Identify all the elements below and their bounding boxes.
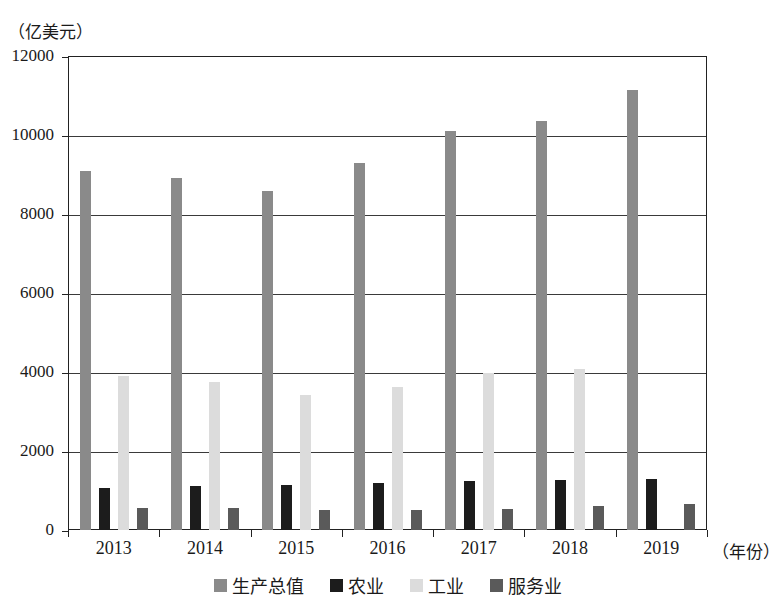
x-axis-tick-mark: [342, 530, 343, 537]
plot-area: [68, 56, 707, 530]
gridline: [69, 136, 706, 137]
y-axis-tick-label: 10000: [12, 125, 55, 145]
legend-swatch-icon: [330, 579, 343, 592]
gridline: [69, 452, 706, 453]
legend-label: 服务业: [508, 572, 562, 598]
legend-swatch-icon: [410, 579, 423, 592]
legend-label: 生产总值: [232, 572, 304, 598]
y-axis-tick-label: 8000: [20, 204, 54, 224]
y-axis-tick-mark: [62, 57, 69, 58]
bar-chart: （亿美元） 020004000600080001000012000 201320…: [0, 0, 776, 598]
x-axis-tick-labels: 2013201420152016201720182019: [68, 538, 707, 566]
legend-swatch-icon: [214, 579, 227, 592]
gridline: [69, 373, 706, 374]
x-axis-tick-label: 2017: [461, 538, 497, 559]
x-axis-title: （年份）: [712, 538, 776, 563]
x-axis-tick-mark: [251, 530, 252, 537]
x-axis-tick-mark: [524, 530, 525, 537]
y-axis-tick-label: 0: [46, 520, 55, 540]
y-axis-tick-mark: [62, 136, 69, 137]
gridline: [69, 294, 706, 295]
y-axis-tick-label: 2000: [20, 441, 54, 461]
legend-swatch-icon: [490, 579, 503, 592]
x-axis-tick-label: 2018: [552, 538, 588, 559]
legend-item: 生产总值: [214, 572, 304, 598]
x-axis-tick-mark: [707, 530, 708, 537]
x-axis-tick-marks: [68, 530, 707, 538]
legend-item: 工业: [410, 572, 464, 598]
x-axis-tick-label: 2019: [643, 538, 679, 559]
y-axis-tick-mark: [62, 373, 69, 374]
x-axis-tick-mark: [616, 530, 617, 537]
legend-label: 农业: [348, 572, 384, 598]
x-axis-tick-mark: [433, 530, 434, 537]
legend-item: 农业: [330, 572, 384, 598]
x-axis-tick-label: 2014: [187, 538, 223, 559]
legend-item: 服务业: [490, 572, 562, 598]
y-axis-tick-label: 12000: [12, 46, 55, 66]
y-axis-tick-mark: [62, 294, 69, 295]
x-axis-tick-label: 2013: [96, 538, 132, 559]
gridline: [69, 215, 706, 216]
x-axis-tick-mark: [159, 530, 160, 537]
y-axis-tick-mark: [62, 452, 69, 453]
x-axis-tick-mark: [68, 530, 69, 537]
y-axis-tick-mark: [62, 215, 69, 216]
y-axis-tick-labels: 020004000600080001000012000: [0, 0, 62, 598]
y-axis-tick-label: 6000: [20, 283, 54, 303]
y-axis-tick-label: 4000: [20, 362, 54, 382]
legend-label: 工业: [428, 572, 464, 598]
x-axis-tick-label: 2016: [370, 538, 406, 559]
chart-legend: 生产总值农业工业服务业: [0, 572, 776, 598]
x-axis-tick-label: 2015: [278, 538, 314, 559]
